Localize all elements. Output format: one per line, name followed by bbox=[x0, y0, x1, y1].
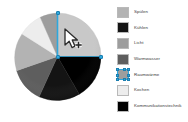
legend-swatch-kochen[interactable] bbox=[117, 85, 129, 96]
handle-bottom-left[interactable] bbox=[116, 78, 119, 81]
slice-handle-right[interactable] bbox=[99, 55, 103, 59]
legend-swatch-kuehlen[interactable] bbox=[117, 22, 129, 33]
chart-legend[interactable]: Spülen Kühlen Licht Warmwasser bbox=[117, 6, 188, 119]
legend-swatch-warmwasser[interactable] bbox=[117, 54, 129, 65]
handle-top-center[interactable] bbox=[123, 68, 126, 71]
handle-middle-right[interactable] bbox=[127, 74, 130, 77]
slice-handle-top[interactable] bbox=[56, 11, 60, 15]
handle-middle-left[interactable] bbox=[116, 74, 119, 77]
legend-label-licht: Licht bbox=[134, 40, 144, 46]
slice-handle-center[interactable] bbox=[56, 55, 60, 59]
legend-label-kochen: Kochen bbox=[134, 87, 149, 93]
legend-item-kuehlen[interactable]: Kühlen bbox=[117, 22, 188, 34]
legend-label-spuelen: Spülen bbox=[134, 9, 148, 15]
chart-canvas[interactable] bbox=[0, 0, 112, 122]
pie-chart[interactable] bbox=[13, 12, 102, 101]
legend-swatch-raumwaerme[interactable] bbox=[117, 69, 129, 80]
legend-label-raumwaerme: Raumwärme bbox=[134, 72, 159, 78]
legend-swatch-kommunikationstechnik[interactable] bbox=[117, 101, 129, 112]
legend-item-raumwaerme[interactable]: Raumwärme bbox=[117, 69, 188, 81]
legend-swatch-spuelen[interactable] bbox=[117, 7, 129, 18]
legend-item-warmwasser[interactable]: Warmwasser bbox=[117, 53, 188, 65]
legend-label-warmwasser: Warmwasser bbox=[134, 56, 160, 62]
legend-swatch-licht[interactable] bbox=[117, 38, 129, 49]
legend-item-kochen[interactable]: Kochen bbox=[117, 84, 188, 96]
handle-bottom-right[interactable] bbox=[127, 78, 130, 81]
legend-item-spuelen[interactable]: Spülen bbox=[117, 6, 188, 18]
legend-label-kommunikationstechnik: Kommunikationstechnik bbox=[134, 103, 181, 109]
legend-label-kuehlen: Kühlen bbox=[134, 25, 148, 31]
handle-top-left[interactable] bbox=[116, 68, 119, 71]
pie-chart-editor: Spülen Kühlen Licht Warmwasser bbox=[0, 0, 188, 122]
legend-item-licht[interactable]: Licht bbox=[117, 37, 188, 49]
handle-top-right[interactable] bbox=[127, 68, 130, 71]
handle-bottom-center[interactable] bbox=[123, 78, 126, 81]
legend-item-kommunikationstechnik[interactable]: Kommunikationstechnik bbox=[117, 100, 188, 112]
